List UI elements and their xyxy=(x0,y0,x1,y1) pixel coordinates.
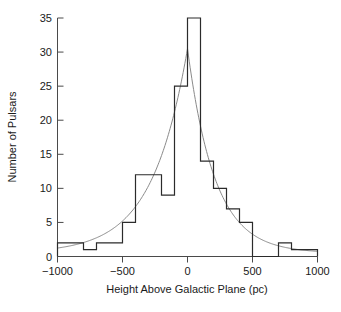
y-tick-label: 25 xyxy=(40,80,52,92)
y-tick-label: 10 xyxy=(40,182,52,194)
pulsar-height-histogram-chart: 05101520253035 −1000−50005001000 Height … xyxy=(0,0,341,312)
x-tick-label: 0 xyxy=(184,265,190,277)
y-tick-label: 15 xyxy=(40,148,52,160)
x-tick-label: −1000 xyxy=(42,265,73,277)
y-axis-title: Number of Pulsars xyxy=(6,91,18,183)
chart-canvas: 05101520253035 −1000−50005001000 Height … xyxy=(0,0,341,312)
y-tick-label: 20 xyxy=(40,114,52,126)
y-tick-label: 30 xyxy=(40,46,52,58)
y-tick-label: 35 xyxy=(40,12,52,24)
x-tick-label: 1000 xyxy=(305,265,329,277)
x-tick-label: 500 xyxy=(243,265,261,277)
x-tick-label: −500 xyxy=(110,265,135,277)
y-tick-label: 5 xyxy=(46,216,52,228)
x-axis-title: Height Above Galactic Plane (pc) xyxy=(106,283,267,295)
y-tick-label: 0 xyxy=(46,251,52,263)
